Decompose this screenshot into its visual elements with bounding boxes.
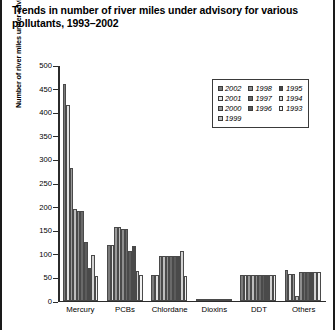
y-tick-label: 450 [39, 85, 52, 95]
y-axis-tick: 400 [28, 108, 58, 118]
legend-label: 1997 [255, 94, 271, 103]
y-tick-mark [53, 89, 58, 90]
legend: 2002199819952001199719942000199619931999 [212, 79, 309, 128]
legend-label: 1993 [286, 104, 302, 113]
y-tick-mark [53, 254, 58, 255]
legend-swatch-icon [218, 96, 223, 101]
legend-swatch-icon [248, 86, 253, 91]
bar-group-mercury [60, 66, 104, 301]
y-tick-mark [53, 66, 58, 67]
y-tick-mark [53, 207, 58, 208]
y-tick-label: 50 [44, 273, 52, 283]
legend-label: 1995 [286, 84, 302, 93]
legend-swatch-icon [218, 116, 223, 121]
y-tick-label: 0 [48, 297, 52, 307]
y-axis-tick: 50 [28, 273, 58, 283]
y-tick-label: 300 [39, 155, 52, 165]
legend-item-1999[interactable]: 1999 [218, 114, 241, 123]
y-tick-mark [53, 160, 58, 161]
legend-label: 1994 [286, 94, 302, 103]
legend-item-2002[interactable]: 2002 [218, 84, 241, 93]
legend-label: 2000 [225, 104, 241, 113]
legend-grid: 2002199819952001199719942000199619931999 [218, 84, 302, 123]
bar [95, 276, 99, 301]
x-axis-labels: MercuryPCBsChlordaneDioxinsDDTOthers [58, 305, 326, 314]
y-tick-mark [53, 302, 58, 303]
y-axis-tick: 150 [28, 226, 58, 236]
legend-item-1996[interactable]: 1996 [248, 104, 271, 113]
y-tick-label: 250 [39, 179, 52, 189]
x-axis-label-others: Others [281, 305, 326, 314]
y-tick-mark [53, 184, 58, 185]
y-axis-tick: 450 [28, 85, 58, 95]
legend-item-1998[interactable]: 1998 [248, 84, 271, 93]
y-tick-label: 200 [39, 203, 52, 213]
y-tick-label: 350 [39, 132, 52, 142]
legend-item-1994[interactable]: 1994 [279, 94, 302, 103]
y-axis-tick: 350 [28, 132, 58, 142]
chart-figure: Trends in number of river miles under ad… [0, 0, 335, 330]
legend-item-2000[interactable]: 2000 [218, 104, 241, 113]
y-axis-tick: 300 [28, 155, 58, 165]
legend-label: 1998 [255, 84, 271, 93]
y-tick-label: 100 [39, 250, 52, 260]
bar [273, 275, 277, 300]
page-title: Trends in number of river miles under ad… [12, 4, 322, 30]
y-axis-tick: 200 [28, 203, 58, 213]
legend-item-1997[interactable]: 1997 [248, 94, 271, 103]
y-axis-tick: 500 [28, 61, 58, 71]
x-axis-line [58, 301, 326, 303]
x-axis-label-pcbs: PCBs [103, 305, 148, 314]
legend-swatch-icon [279, 96, 284, 101]
legend-swatch-icon [218, 106, 223, 111]
legend-label: 1996 [255, 104, 271, 113]
y-tick-mark [53, 278, 58, 279]
legend-label: 2001 [225, 94, 241, 103]
y-axis-tick: 0 [28, 297, 58, 307]
legend-swatch-icon [279, 86, 284, 91]
title-block: Trends in number of river miles under ad… [12, 4, 322, 30]
y-axis-tick: 100 [28, 250, 58, 260]
legend-swatch-icon [218, 86, 223, 91]
y-tick-mark [53, 113, 58, 114]
y-tick-label: 400 [39, 108, 52, 118]
legend-item-1995[interactable]: 1995 [279, 84, 302, 93]
y-axis-title: Number of river miles under advisory (in… [14, 0, 23, 108]
legend-label: 1999 [225, 114, 241, 123]
bar [228, 299, 232, 301]
x-axis-label-mercury: Mercury [58, 305, 103, 314]
x-axis-label-chlordane: Chlordane [147, 305, 192, 314]
y-tick-mark [53, 231, 58, 232]
legend-swatch-icon [248, 106, 253, 111]
legend-label: 2002 [225, 84, 241, 93]
x-axis-label-ddt: DDT [237, 305, 282, 314]
bar [184, 276, 188, 301]
bar-group-chlordane [148, 66, 192, 301]
y-tick-label: 150 [39, 226, 52, 236]
legend-swatch-icon [279, 106, 284, 111]
bar-group-pcbs [104, 66, 148, 301]
y-tick-mark [53, 136, 58, 137]
legend-item-2001[interactable]: 2001 [218, 94, 241, 103]
x-axis-label-dioxins: Dioxins [192, 305, 237, 314]
legend-swatch-icon [248, 96, 253, 101]
y-axis-tick: 250 [28, 179, 58, 189]
bar [317, 272, 321, 300]
y-tick-label: 500 [39, 61, 52, 71]
bar [139, 275, 143, 301]
legend-item-1993[interactable]: 1993 [279, 104, 302, 113]
